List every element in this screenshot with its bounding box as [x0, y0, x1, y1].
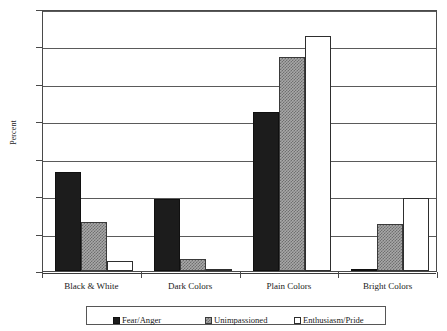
bar-bright-colors-fear-anger — [351, 269, 377, 271]
bar-plain-colors-enthusiasm-pride — [305, 36, 331, 271]
gridline-15 — [43, 161, 436, 162]
legend-item-unimpassioned[interactable]: Unimpassioned — [205, 316, 267, 325]
legend-swatch-icon-2 — [294, 317, 301, 324]
bar-dark-colors-unimpassioned — [180, 259, 206, 271]
x-tick-mark-0 — [42, 272, 43, 278]
x-tick-mark-1 — [141, 272, 142, 278]
y-axis-title: Percent — [9, 103, 18, 163]
bar-bright-colors-unimpassioned — [377, 224, 403, 271]
gridline-20 — [43, 123, 436, 124]
bar-dark-colors-enthusiasm-pride — [206, 269, 232, 271]
bar-black-white-fear-anger — [55, 172, 81, 271]
bar-plain-colors-unimpassioned — [279, 57, 305, 271]
legend-item-enthusiasm-pride[interactable]: Enthusiasm/Pride — [294, 316, 364, 325]
gridline-35 — [43, 11, 436, 12]
bar-black-white-unimpassioned — [81, 222, 107, 271]
gridline-30 — [43, 48, 436, 49]
gridline-25 — [43, 86, 436, 87]
legend-swatch-icon-1 — [205, 317, 212, 324]
legend-label-2: Enthusiasm/Pride — [303, 316, 364, 325]
category-label-dark-colors: Dark Colors — [141, 281, 240, 291]
bar-chart: Percent 05101520253035 Black & WhiteDark… — [0, 0, 447, 331]
gridline-10 — [43, 198, 436, 199]
category-label-black-white: Black & White — [42, 281, 141, 291]
plot-area — [42, 10, 437, 272]
x-tick-mark-2 — [240, 272, 241, 278]
category-label-plain-colors: Plain Colors — [240, 281, 339, 291]
x-tick-mark-3 — [338, 272, 339, 278]
x-tick-mark-4 — [437, 272, 438, 278]
bar-plain-colors-fear-anger — [253, 112, 279, 271]
legend-item-fear-anger[interactable]: Fear/Anger — [113, 316, 161, 325]
category-label-bright-colors: Bright Colors — [338, 281, 437, 291]
bar-bright-colors-enthusiasm-pride — [403, 198, 429, 271]
bar-black-white-enthusiasm-pride — [107, 261, 133, 271]
legend-label-1: Unimpassioned — [214, 316, 267, 325]
bar-dark-colors-fear-anger — [154, 199, 180, 271]
legend-swatch-icon-0 — [113, 317, 120, 324]
legend-label-0: Fear/Anger — [122, 316, 161, 325]
chart-legend: Fear/AngerUnimpassionedEnthusiasm/Pride — [86, 306, 386, 325]
